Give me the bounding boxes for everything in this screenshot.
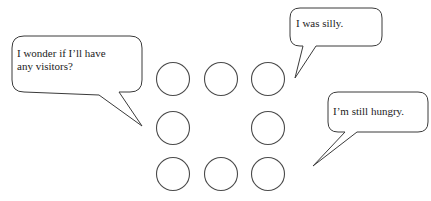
speech-bubble-scene: I wonder if I’ll have any visitors? I wa… — [0, 0, 431, 201]
circle-bottom-right[interactable] — [252, 158, 285, 191]
circle-bottom-center[interactable] — [205, 158, 238, 191]
circle-grid — [157, 63, 285, 191]
bubble-silly-text: I was silly. — [296, 17, 382, 30]
bubble-wonder-text: I wonder if I’ll have any visitors? — [17, 47, 137, 73]
circle-middle-left[interactable] — [157, 112, 190, 145]
circle-bottom-left[interactable] — [157, 158, 190, 191]
bubble-hungry-text: I’m still hungry. — [333, 105, 425, 118]
circle-top-center[interactable] — [205, 63, 238, 96]
scene-canvas — [0, 0, 431, 201]
circle-middle-right[interactable] — [252, 112, 285, 145]
circle-top-right[interactable] — [252, 63, 285, 96]
circle-top-left[interactable] — [157, 63, 190, 96]
bubble-hungry-shape[interactable] — [313, 92, 428, 166]
